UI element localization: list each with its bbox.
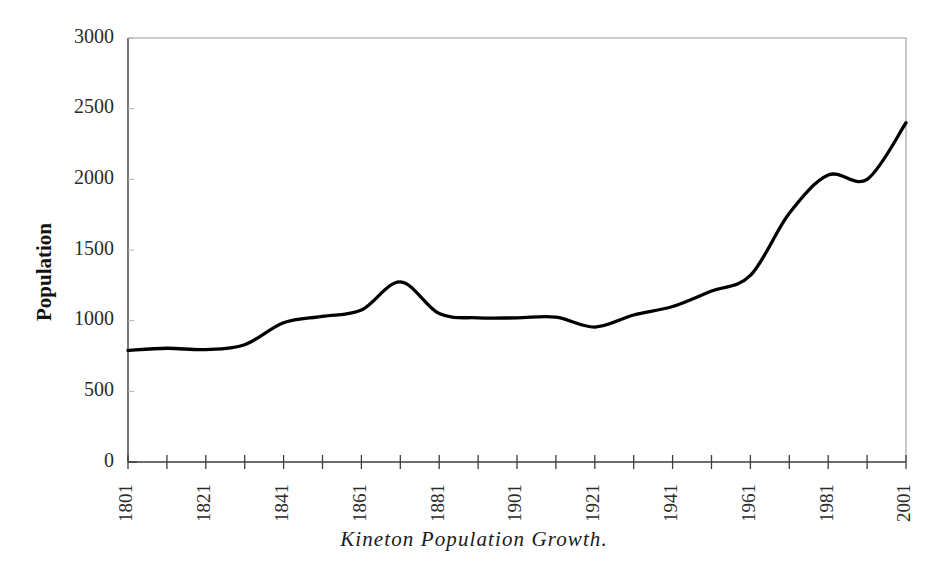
x-tick-label-1881: 1881 <box>427 484 448 522</box>
y-tick-label-2000: 2000 <box>74 166 114 188</box>
figure-caption: Kineton Population Growth. <box>339 527 608 551</box>
y-tick-marks <box>128 38 137 462</box>
chart-figure: 050010001500200025003000 180118211841186… <box>0 0 942 568</box>
y-tick-label-1500: 1500 <box>74 237 114 259</box>
x-tick-label-2001: 2001 <box>893 484 914 522</box>
plot-frame <box>128 38 906 462</box>
x-tick-marks <box>128 455 906 469</box>
y-tick-label-3000: 3000 <box>74 25 114 47</box>
y-tick-label-500: 500 <box>84 378 114 400</box>
y-tick-label-group: 050010001500200025003000 <box>74 25 114 471</box>
population-series-line <box>128 123 906 351</box>
x-tick-label-1801: 1801 <box>115 484 136 522</box>
y-tick-label-2500: 2500 <box>74 95 114 117</box>
x-tick-label-1961: 1961 <box>738 484 759 522</box>
x-tick-label-1901: 1901 <box>504 484 525 522</box>
y-axis-title: Population <box>32 223 56 321</box>
x-tick-label-1841: 1841 <box>271 484 292 522</box>
x-tick-label-1921: 1921 <box>582 484 603 522</box>
x-tick-label-1941: 1941 <box>660 484 681 522</box>
x-tick-label-1981: 1981 <box>816 484 837 522</box>
population-line-chart: 050010001500200025003000 180118211841186… <box>0 0 942 568</box>
x-tick-label-group: 1801182118411861188119011921194119611981… <box>115 484 914 522</box>
x-tick-label-1861: 1861 <box>349 484 370 522</box>
y-tick-label-0: 0 <box>104 449 114 471</box>
x-tick-label-1821: 1821 <box>193 484 214 522</box>
y-tick-label-1000: 1000 <box>74 307 114 329</box>
